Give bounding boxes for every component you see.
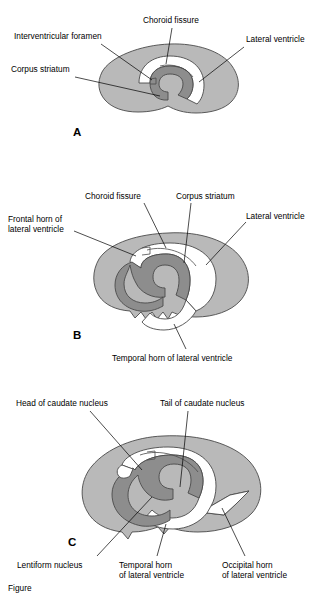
panel-b-label-choroid-fissure: Choroid fissure: [85, 191, 141, 201]
panel-c-label-lentiform: Lentiform nucleus: [17, 560, 83, 570]
panel-a-label-choroid-fissure: Choroid fissure: [143, 15, 199, 25]
panel-a: Interventricular foramen Choroid fissure…: [11, 15, 305, 138]
panel-b-label-lateral-ventricle: Lateral ventricle: [246, 211, 305, 221]
panel-c-label-head-caudate: Head of caudate nucleus: [16, 398, 108, 408]
panel-a-label-lateral-ventricle: Lateral ventricle: [246, 34, 305, 44]
panel-c: Head of caudate nucleus Tail of caudate …: [16, 398, 287, 580]
panel-c-label-occipital-horn-1: Occipital horn: [222, 560, 273, 570]
figure-caption: Figure: [8, 583, 32, 593]
panel-b-label-temporal-horn: Temporal horn of lateral ventricle: [112, 353, 233, 363]
panel-b-letter: B: [73, 329, 81, 341]
panel-c-letter: C: [68, 536, 76, 548]
panel-b-label-frontal-horn-1: Frontal horn of: [8, 214, 63, 224]
panel-b: Choroid fissure Corpus striatum Frontal …: [8, 191, 305, 363]
figure-svg: Interventricular foramen Choroid fissure…: [0, 0, 325, 593]
panel-b-leader-temporal-horn: [174, 324, 186, 349]
panel-c-label-temporal-horn-2: of lateral ventricle: [119, 570, 184, 580]
panel-c-label-tail-caudate: Tail of caudate nucleus: [160, 398, 244, 408]
panel-b-label-frontal-horn-2: lateral ventricle: [8, 224, 64, 234]
panel-a-label-interventricular-foramen: Interventricular foramen: [14, 31, 102, 41]
panel-a-letter: A: [73, 126, 81, 138]
panel-c-label-temporal-horn-1: Temporal horn: [119, 560, 172, 570]
panel-c-label-occipital-horn-2: of lateral ventricle: [222, 570, 287, 580]
panel-a-brain-outline: [99, 44, 239, 113]
anatomy-figure: Interventricular foramen Choroid fissure…: [0, 0, 325, 593]
panel-a-label-corpus-striatum: Corpus striatum: [11, 64, 70, 74]
panel-b-label-corpus-striatum: Corpus striatum: [176, 191, 235, 201]
